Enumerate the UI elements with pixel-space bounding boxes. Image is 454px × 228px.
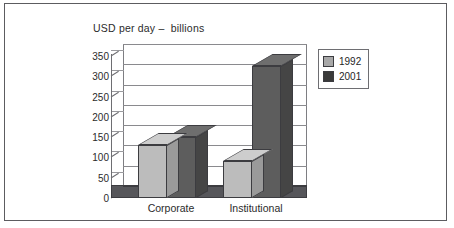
bar-side-face (252, 155, 264, 198)
y-tick-label: 350 (92, 51, 109, 62)
x-tick-label: Institutional (229, 202, 282, 214)
plot-area: 050100150200250300350 CorporateInstituti… (111, 42, 321, 194)
y-tick-label: 50 (98, 172, 109, 183)
legend-swatch-icon (323, 56, 334, 67)
y-tick-label: 0 (103, 193, 109, 204)
chart-figure: USD per day – billions 05010015020025030… (0, 0, 454, 228)
bar-side-face (196, 130, 208, 198)
y-tick-label: 250 (92, 91, 109, 102)
gridline (123, 44, 307, 45)
bar-1992-corporate (138, 145, 167, 198)
y-tick-label: 300 (92, 71, 109, 82)
bar-front-face (138, 145, 167, 198)
chart-legend: 19922001 (318, 49, 369, 89)
legend-swatch-icon (323, 71, 334, 82)
y-tick-label: 200 (92, 111, 109, 122)
legend-item[interactable]: 1992 (323, 54, 363, 69)
bar-side-face (167, 138, 179, 198)
x-tick-label: Corporate (148, 202, 195, 214)
legend-item[interactable]: 2001 (323, 69, 363, 84)
figure-frame: USD per day – billions 05010015020025030… (4, 3, 447, 221)
legend-label: 2001 (339, 71, 361, 82)
y-tick-label: 150 (92, 132, 109, 143)
bar-side-face (281, 59, 293, 198)
bar-front-face (223, 161, 252, 198)
legend-label: 1992 (339, 56, 361, 67)
bar-1992-institutional (223, 161, 252, 198)
y-tick-label: 100 (92, 152, 109, 163)
chart-title: USD per day – billions (93, 22, 204, 34)
